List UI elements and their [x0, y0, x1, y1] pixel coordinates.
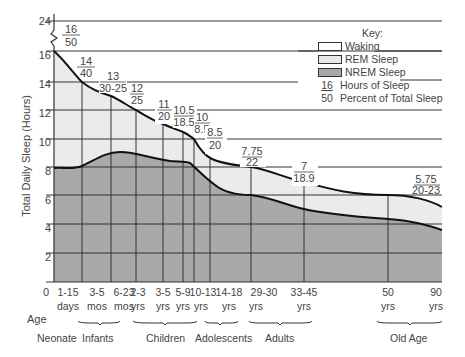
- legend-item-rem: REM Sleep: [318, 53, 443, 66]
- annotation-hours: 10.5: [173, 104, 194, 116]
- annotation-hours: 12: [131, 82, 143, 94]
- annotation-percent: 25: [131, 94, 143, 106]
- legend-label: NREM Sleep: [345, 66, 406, 79]
- legend: Key: Waking REM Sleep NREM Sleep 16 Hour…: [318, 27, 443, 105]
- group-adolescents: Adolescents: [195, 332, 252, 344]
- annotation-percent: 18.9: [293, 172, 314, 184]
- annotation-hours: 13: [107, 70, 119, 82]
- x-tick-bottom: yrs: [131, 300, 145, 312]
- annotation: 16 50: [60, 23, 82, 48]
- annotation-hours: 8.5: [207, 126, 222, 138]
- legend-hours-number: 16: [318, 79, 336, 92]
- x-tick-bottom: yrs: [297, 300, 311, 312]
- legend-item-percent: 50 Percent of Total Sleep: [318, 92, 443, 105]
- legend-percent-number: 50: [318, 92, 336, 105]
- x-tick-bottom: yrs: [249, 300, 263, 312]
- annotation-hours: 7: [301, 160, 307, 172]
- x-tick-bottom: yrs: [429, 300, 443, 312]
- annotation-percent: 40: [80, 67, 92, 79]
- legend-label: Percent of Total Sleep: [340, 92, 443, 105]
- legend-item-nrem: NREM Sleep: [318, 66, 443, 79]
- legend-item-hours: 16 Hours of Sleep: [318, 79, 443, 92]
- annotation-hours: 14: [80, 55, 92, 67]
- x-tick-bottom: mos: [87, 300, 107, 312]
- group-neonate: Neonate: [37, 332, 77, 344]
- x-tick-labels: 1-15 days 3-5 mos 6-23 mos 2-3 yrs 3-5 y…: [57, 286, 443, 312]
- x-tick-top: 33-45: [291, 286, 318, 298]
- y-tick-10: 10: [39, 136, 51, 148]
- legend-title: Key:: [362, 27, 443, 40]
- x-tick-top: 29-30: [251, 286, 278, 298]
- y-tick-8: 8: [45, 165, 51, 177]
- annotation-percent: 20: [209, 139, 221, 151]
- x-tick-bottom: yrs: [381, 300, 395, 312]
- age-group-braces: [78, 321, 442, 325]
- x-tick-top: 2-3: [130, 286, 145, 298]
- x-tick-top: 90: [430, 286, 442, 298]
- x-tick-top: 3-5: [155, 286, 170, 298]
- legend-label: REM Sleep: [345, 53, 398, 66]
- x-tick-top: 50: [382, 286, 394, 298]
- annotation: 7 18.9: [292, 160, 318, 186]
- annotation-hours: 16: [65, 23, 77, 35]
- x-tick-top: 14-18: [216, 286, 243, 298]
- annotation: 11 20: [155, 98, 175, 124]
- nrem-swatch: [318, 68, 342, 77]
- x-tick-top: 3-5: [89, 286, 104, 298]
- legend-label: Waking: [345, 40, 380, 53]
- group-adults: Adults: [265, 332, 294, 344]
- annotation: 12 25: [130, 82, 144, 106]
- group-old-age: Old Age: [390, 332, 427, 344]
- y-tick-labels: 24 16 14 12 10 8 6 4 2: [39, 15, 51, 263]
- group-infants: Infants: [82, 332, 114, 344]
- annotation-percent: 20: [158, 110, 170, 122]
- legend-item-waking: Waking: [318, 40, 443, 53]
- group-children: Children: [146, 332, 185, 344]
- y-tick-2: 2: [45, 251, 51, 263]
- y-tick-24: 24: [39, 15, 51, 27]
- annotation-percent: 22: [246, 156, 258, 168]
- x-tick-bottom: yrs: [194, 300, 208, 312]
- annotation-hours: 10: [196, 111, 208, 123]
- rem-swatch: [318, 55, 342, 64]
- waking-swatch: [318, 42, 342, 51]
- annotation: 14 40: [77, 55, 95, 79]
- x-tick-top: 10-13: [190, 286, 217, 298]
- x-tick-bottom: yrs: [156, 300, 170, 312]
- annotation-percent: 18.5: [173, 116, 194, 128]
- y-tick-4: 4: [45, 222, 51, 234]
- x-tick-top: 1-15: [57, 286, 78, 298]
- annotation-percent: 30-25: [99, 82, 127, 94]
- y-tick-16: 16: [39, 49, 51, 61]
- y-tick-6: 6: [45, 194, 51, 206]
- annotation: 8.5 20: [205, 126, 227, 154]
- annotation: 13 30-25: [99, 70, 127, 94]
- annotation-hours: 11: [158, 98, 169, 110]
- age-label: Age: [27, 313, 47, 325]
- annotation: 7.75 22: [240, 143, 266, 168]
- x-tick-bottom: yrs: [222, 300, 236, 312]
- x-tick-bottom: yrs: [176, 300, 190, 312]
- x-tick-top: 5-9: [175, 286, 190, 298]
- annotation: 5.75 20-23: [412, 173, 440, 196]
- y-tick-12: 12: [39, 107, 51, 119]
- x-tick-0: 0: [43, 286, 49, 298]
- annotation-percent: 20-23: [412, 184, 440, 196]
- x-tick-bottom: days: [57, 300, 79, 312]
- legend-label: Hours of Sleep: [340, 79, 409, 92]
- y-axis-title: Total Daily Sleep (Hours): [20, 86, 32, 226]
- y-tick-14: 14: [39, 78, 51, 90]
- annotation-percent: 50: [65, 36, 77, 48]
